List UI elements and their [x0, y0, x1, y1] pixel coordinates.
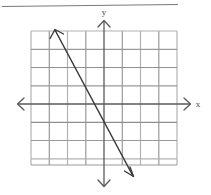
x-axis-label: x [196, 99, 201, 109]
plotted-line [50, 30, 134, 177]
figure-root: y x [0, 0, 211, 195]
y-axis-label: y [102, 7, 107, 17]
coordinate-graph: y x [0, 0, 211, 195]
top-divider-rule [2, 5, 178, 7]
